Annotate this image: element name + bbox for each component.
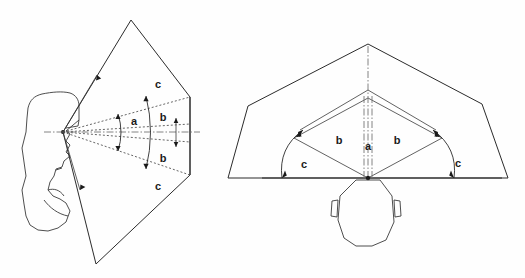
diagram-canvas: c b a b c [0, 0, 525, 278]
top-view-label-c-right: c [455, 157, 461, 169]
side-view-label-a: a [131, 115, 138, 127]
side-view-label-c-top: c [155, 78, 161, 90]
top-view-label-c-left: c [301, 158, 307, 170]
side-view-label-c-bottom: c [155, 180, 161, 192]
side-view-label-b-bottom: b [160, 152, 167, 164]
figure-root: c b a b c [0, 0, 525, 278]
top-view-label-b-left: b [336, 134, 343, 146]
top-view-label-a: a [365, 140, 372, 152]
top-view-label-b-right: b [394, 134, 401, 146]
top-apex-marker [366, 176, 370, 180]
side-view-label-b-top: b [160, 111, 167, 123]
canvas-background [0, 0, 525, 278]
